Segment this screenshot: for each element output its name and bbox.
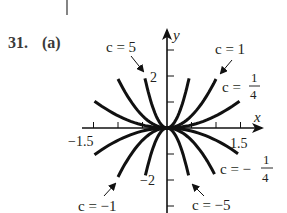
label-c-neg-1: c = −1 xyxy=(78,198,117,213)
label-c-quarter: c = 1 4 xyxy=(222,70,260,102)
problem-part: (a) xyxy=(42,34,61,52)
label-c-neg-5: c = −5 xyxy=(192,197,231,213)
label-c-quarter-den: 4 xyxy=(250,87,257,102)
label-c-neg-quarter: c = − 1 4 xyxy=(220,152,273,185)
label-c-quarter-prefix: c = xyxy=(222,79,241,95)
label-c-1: c = 1 xyxy=(215,41,245,57)
x-tick-label-pos: 1.5 xyxy=(230,136,248,151)
arrow-c-neg-5 xyxy=(193,185,204,196)
arrow-c-1 xyxy=(221,60,232,73)
arrow-c-5 xyxy=(131,56,143,71)
y-tick-label-neg: −2 xyxy=(140,173,155,188)
arrow-c-neg-1 xyxy=(104,184,115,196)
label-c-neg-quarter-num: 1 xyxy=(263,152,270,167)
label-c-neg-quarter-den: 4 xyxy=(262,170,269,185)
problem-number: 31. xyxy=(8,34,28,51)
label-c-5: c = 5 xyxy=(106,39,136,55)
y-tick-label-pos: 2 xyxy=(150,70,157,85)
y-axis-label: y xyxy=(171,27,180,43)
label-c-neg-quarter-prefix: c = − xyxy=(220,161,251,177)
x-tick-label-neg: −1.5 xyxy=(68,134,93,149)
label-c-quarter-num: 1 xyxy=(251,70,258,85)
figure: 31. (a) y x −1.5 1.5 2 −2 c = 5 c = 1 c … xyxy=(0,0,287,213)
x-axis-label: x xyxy=(253,109,261,125)
axes xyxy=(82,30,262,213)
